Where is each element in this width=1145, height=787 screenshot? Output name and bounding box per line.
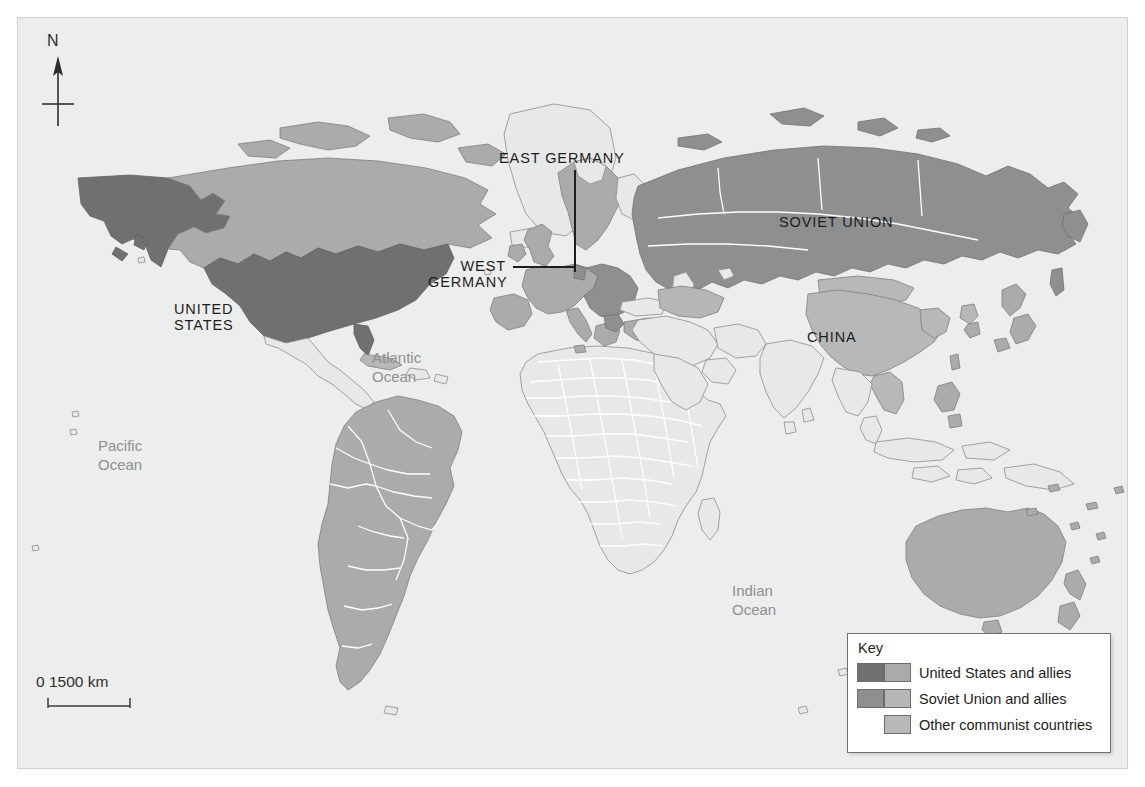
world-map: .us-dark { fill: #6f7072; stroke: #62636… <box>17 17 1128 769</box>
key-swatch-right-us <box>884 663 911 682</box>
label-east-germany-line1: EAST GERMANY <box>499 150 625 166</box>
key-label-us-and-allies: United States and allies <box>919 665 1071 681</box>
key-swatch-left-soviet <box>857 689 884 708</box>
label-indian-ocean-line2: Ocean <box>732 600 776 619</box>
north-arrow-label: N <box>47 32 59 50</box>
label-west-germany-line2: GERMANY <box>428 274 506 290</box>
key-swatch-left-placeholder <box>857 715 884 734</box>
key-swatch-other-communist <box>857 715 911 734</box>
scale-bar-label: 0 1500 km <box>36 673 108 691</box>
label-indian-ocean-line1: Indian <box>732 581 776 600</box>
key-swatch-left-us <box>857 663 884 682</box>
map-key: Key United States and allies Soviet Unio… <box>847 633 1111 753</box>
label-china: CHINA <box>807 329 857 345</box>
map-key-title: Key <box>858 640 1102 656</box>
key-label-other-communist: Other communist countries <box>919 717 1092 733</box>
label-china-line1: CHINA <box>807 329 857 345</box>
label-united-states: UNITED STATES <box>174 301 234 333</box>
scale-bar-glyph <box>44 697 152 711</box>
screenshot-root: .us-dark { fill: #6f7072; stroke: #62636… <box>0 0 1145 787</box>
label-atlantic-ocean: Atlantic Ocean <box>372 348 421 386</box>
label-west-germany-line1: WEST <box>428 258 506 274</box>
key-swatch-us-and-allies <box>857 663 911 682</box>
label-atlantic-ocean-line1: Atlantic <box>372 348 421 367</box>
key-swatch-soviet-and-allies <box>857 689 911 708</box>
label-indian-ocean: Indian Ocean <box>732 581 776 619</box>
label-pacific-ocean: Pacific Ocean <box>98 436 142 474</box>
key-row-us-and-allies: United States and allies <box>857 660 1102 685</box>
label-united-states-line2: STATES <box>174 317 234 333</box>
key-row-soviet-and-allies: Soviet Union and allies <box>857 686 1102 711</box>
key-swatch-right-soviet <box>884 689 911 708</box>
label-east-germany: EAST GERMANY <box>499 150 625 166</box>
leader-line-east-germany <box>574 170 576 272</box>
north-arrow: N <box>36 32 80 128</box>
label-soviet-union-line1: SOVIET UNION <box>779 214 893 230</box>
label-west-germany: WEST GERMANY <box>428 258 506 290</box>
label-pacific-ocean-line1: Pacific <box>98 436 142 455</box>
key-row-other-communist: Other communist countries <box>857 712 1102 737</box>
label-soviet-union: SOVIET UNION <box>779 214 893 230</box>
key-label-soviet-and-allies: Soviet Union and allies <box>919 691 1067 707</box>
key-swatch-right-other-communist <box>884 715 911 734</box>
leader-line-west-germany <box>513 266 575 268</box>
label-united-states-line1: UNITED <box>174 301 234 317</box>
label-pacific-ocean-line2: Ocean <box>98 455 142 474</box>
label-atlantic-ocean-line2: Ocean <box>372 367 421 386</box>
scale-bar: 0 1500 km <box>36 673 196 719</box>
